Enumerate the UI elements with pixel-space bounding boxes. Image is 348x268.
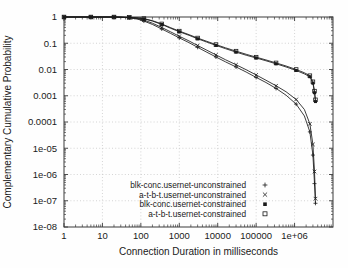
data-point-marker (312, 182, 316, 186)
legend-marker-0 (263, 183, 268, 188)
data-point-marker (294, 98, 298, 102)
series-line-1 (64, 17, 315, 199)
y-tick-label: 1e-06 (33, 169, 57, 180)
data-curves (64, 17, 315, 203)
data-point-marker (128, 16, 131, 19)
y-tick-label: 1e-07 (33, 195, 57, 206)
x-tick-label: 10 (97, 230, 108, 241)
legend-label-3: a-t-b-t.usernet-constrained (148, 209, 246, 219)
data-point-marker (112, 16, 115, 19)
x-axis-tick-labels: 1101001000100001000001e+06 (61, 230, 308, 241)
y-tick-label: 0.1 (44, 38, 57, 49)
x-axis-title: Connection Duration in milliseconds (119, 246, 278, 257)
x-tick-label: 1e+06 (281, 230, 308, 241)
y-tick-label: 1e-05 (33, 143, 57, 154)
y-axis-title: Complementary Cumulative Probability (2, 36, 13, 209)
data-point-marker (89, 16, 92, 19)
x-tick-label: 100 (133, 230, 149, 241)
y-tick-label: 0.0001 (28, 116, 57, 127)
chart-legend: blk-conc.usernet-unconstraineda-t-b-t.us… (130, 180, 267, 219)
legend-marker-2 (263, 202, 267, 206)
data-point-marker (311, 153, 315, 157)
x-tick-label: 1 (61, 230, 66, 241)
legend-label-1: a-t-b-t.usernet-unconstrained (139, 190, 246, 200)
data-point-marker (142, 17, 145, 20)
data-point-marker (313, 201, 317, 205)
y-tick-label: 0.001 (33, 90, 57, 101)
chart-svg: 1101001000100001000001e+06 10.10.010.001… (0, 0, 348, 268)
y-tick-label: 0.01 (39, 64, 58, 75)
legend-marker-3 (263, 212, 267, 216)
legend-label-0: blk-conc.usernet-unconstrained (130, 180, 246, 190)
x-tick-label: 1000 (169, 230, 190, 241)
x-tick-label: 10000 (205, 230, 231, 241)
series-line-2 (64, 17, 315, 102)
ccdf-chart-figure: 1101001000100001000001e+06 10.10.010.001… (0, 0, 348, 268)
x-tick-label: 100000 (240, 230, 272, 241)
y-tick-label: 1 (52, 11, 57, 22)
y-tick-label: 1e-08 (33, 221, 57, 232)
data-point-marker (63, 16, 66, 19)
series-line-0 (64, 17, 315, 203)
legend-label-2: blk-conc.usernet-constrained (139, 199, 246, 209)
y-axis-tick-labels: 10.10.010.0010.00011e-051e-061e-071e-08 (28, 11, 57, 232)
legend-marker-1 (263, 193, 267, 197)
